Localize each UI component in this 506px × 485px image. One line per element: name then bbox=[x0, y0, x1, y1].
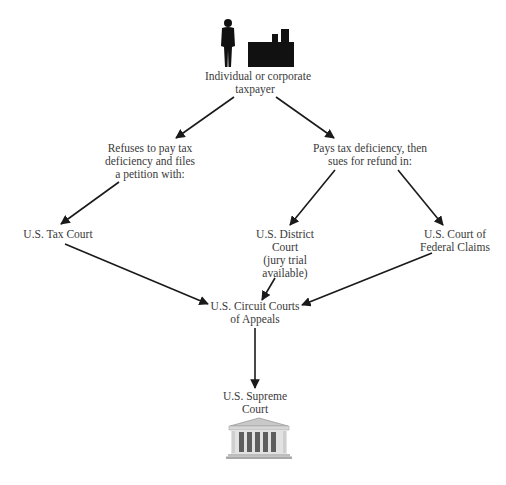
arrow-taxpayer-to-refuses bbox=[176, 97, 234, 138]
pays-line-1: Pays tax deficiency, then bbox=[300, 142, 440, 155]
tax-court-line-1: U.S. Tax Court bbox=[18, 228, 98, 241]
supreme-court-line-1: U.S. Supreme bbox=[215, 390, 295, 403]
supreme-court-line-2: Court bbox=[215, 403, 295, 416]
refuses-line-3: a petition with: bbox=[90, 168, 210, 181]
node-district-court: U.S. District Court (jury trial availabl… bbox=[250, 228, 320, 280]
arrow-tax-court-to-circuit bbox=[65, 244, 208, 304]
arrow-district-to-circuit bbox=[262, 278, 275, 300]
taxpayer-line-2: taxpayer bbox=[205, 83, 305, 96]
refuses-line-2: deficiency and files bbox=[90, 155, 210, 168]
federal-claims-line-1: U.S. Court of bbox=[415, 228, 495, 241]
circuit-courts-line-2: of Appeals bbox=[205, 313, 305, 326]
node-tax-court: U.S. Tax Court bbox=[18, 228, 98, 241]
person-icon bbox=[219, 18, 237, 68]
arrow-taxpayer-to-pays bbox=[276, 97, 334, 138]
taxpayer-line-1: Individual or corporate bbox=[205, 70, 305, 83]
arrow-pays-to-district-court bbox=[290, 170, 335, 225]
node-supreme-court: U.S. Supreme Court bbox=[215, 390, 295, 416]
pays-line-2: sues for refund in: bbox=[300, 155, 440, 168]
district-court-line-3: (jury trial bbox=[250, 254, 320, 267]
factory-icon bbox=[248, 29, 294, 67]
arrow-pays-to-federal-claims bbox=[398, 170, 443, 225]
circuit-courts-line-1: U.S. Circuit Courts bbox=[205, 300, 305, 313]
district-court-line-1: U.S. District bbox=[250, 228, 320, 241]
node-pays: Pays tax deficiency, then sues for refun… bbox=[300, 142, 440, 168]
refuses-line-1: Refuses to pay tax bbox=[90, 142, 210, 155]
node-taxpayer: Individual or corporate taxpayer bbox=[205, 70, 305, 96]
district-court-line-4: available) bbox=[250, 267, 320, 280]
node-federal-claims: U.S. Court of Federal Claims bbox=[415, 228, 495, 254]
district-court-line-2: Court bbox=[250, 241, 320, 254]
node-circuit-courts: U.S. Circuit Courts of Appeals bbox=[205, 300, 305, 326]
arrow-refuses-to-tax-court bbox=[61, 182, 119, 224]
federal-claims-line-2: Federal Claims bbox=[415, 241, 495, 254]
courthouse-icon bbox=[226, 417, 292, 459]
node-refuses: Refuses to pay tax deficiency and files … bbox=[90, 142, 210, 181]
arrow-federal-claims-to-circuit bbox=[302, 253, 432, 305]
